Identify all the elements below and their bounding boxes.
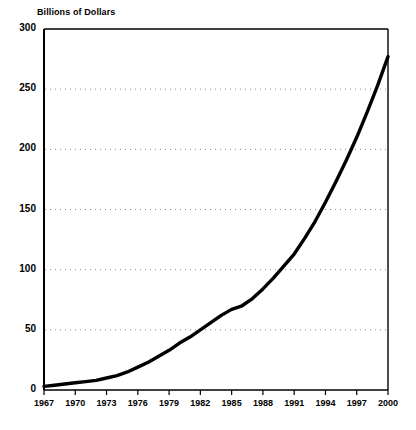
y-axis-tick-label: 100 (4, 263, 36, 274)
y-axis-tick-label: 300 (4, 22, 36, 33)
x-axis-ticks (44, 390, 388, 395)
x-axis-tick-label: 1991 (277, 398, 311, 408)
y-axis-tick-label: 150 (4, 203, 36, 214)
y-axis-tick-label: 200 (4, 142, 36, 153)
x-axis-tick-label: 1982 (183, 398, 217, 408)
x-axis-tick-label: 1988 (246, 398, 280, 408)
x-axis-tick-label: 1985 (215, 398, 249, 408)
data-series-line (44, 57, 388, 387)
x-axis-tick-label: 1994 (308, 398, 342, 408)
x-axis-tick-label: 1970 (58, 398, 92, 408)
y-axis-tick-label: 50 (4, 323, 36, 334)
x-axis-tick-label: 1976 (121, 398, 155, 408)
x-axis-tick-label: 2000 (371, 398, 405, 408)
x-axis-tick-label: 1967 (27, 398, 61, 408)
y-axis-tick-label: 0 (4, 383, 36, 394)
x-axis-tick-label: 1979 (152, 398, 186, 408)
gridlines (45, 89, 388, 330)
y-axis-tick-label: 250 (4, 82, 36, 93)
chart-page: Billions of Dollars 050100150200250300 1… (0, 0, 416, 430)
x-axis-tick-label: 1973 (90, 398, 124, 408)
chart-plot-area (0, 0, 416, 430)
x-axis-tick-label: 1997 (340, 398, 374, 408)
